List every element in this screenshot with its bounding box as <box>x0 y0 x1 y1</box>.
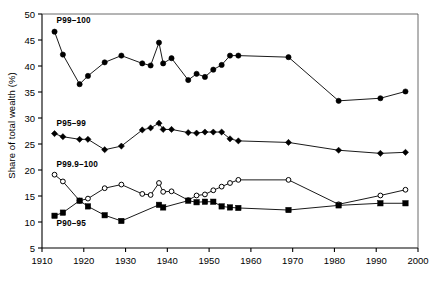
data-point <box>161 189 166 194</box>
x-tick-label: 1960 <box>240 255 261 266</box>
data-point <box>285 139 291 145</box>
series-label-P99.9-100: P99.9–100 <box>57 160 99 169</box>
series-line <box>55 32 406 101</box>
data-point <box>210 129 216 135</box>
data-point <box>85 73 90 78</box>
data-point <box>169 56 174 61</box>
series-P95-99: P95–99 <box>51 119 408 156</box>
data-point <box>186 198 191 203</box>
data-point <box>160 205 165 210</box>
data-point <box>336 147 342 153</box>
y-tick-label: 15 <box>24 191 35 202</box>
series-P90-95: P90–95 <box>52 198 408 228</box>
data-point <box>336 98 341 103</box>
data-point <box>219 184 224 189</box>
data-point <box>119 53 124 58</box>
data-point <box>228 181 233 186</box>
data-point <box>168 126 174 132</box>
y-tick-label: 35 <box>24 87 35 98</box>
data-point <box>378 201 383 206</box>
data-point <box>378 96 383 101</box>
data-point <box>102 213 107 218</box>
y-tick-label: 40 <box>24 61 35 72</box>
data-point <box>202 129 208 135</box>
y-tick-label: 30 <box>24 113 35 124</box>
data-point <box>185 129 191 135</box>
data-point <box>211 199 216 204</box>
y-tick-label: 45 <box>24 35 35 46</box>
data-point <box>403 201 408 206</box>
data-point <box>202 199 207 204</box>
y-tick-label: 20 <box>24 165 35 176</box>
chart-plot-area: 5101520253035404550191019201930194019501… <box>0 0 441 284</box>
x-tick-label: 1970 <box>282 255 303 266</box>
data-point <box>102 60 107 65</box>
data-point <box>378 193 383 198</box>
data-point <box>140 61 145 66</box>
data-point <box>148 63 153 68</box>
data-point <box>156 120 162 126</box>
x-tick-label: 1950 <box>199 255 220 266</box>
data-point <box>77 198 82 203</box>
data-point <box>236 177 241 182</box>
data-point <box>219 204 224 209</box>
data-point <box>86 196 91 201</box>
data-point <box>156 40 161 45</box>
data-point <box>202 74 207 79</box>
data-point <box>286 207 291 212</box>
data-point <box>403 89 408 94</box>
data-point <box>286 177 291 182</box>
data-point <box>227 205 232 210</box>
data-point <box>186 77 191 82</box>
data-point <box>227 53 232 58</box>
data-point <box>140 192 145 197</box>
data-point <box>219 62 224 67</box>
y-tick-label: 50 <box>24 9 35 20</box>
series-label-P95-99: P95–99 <box>57 119 87 128</box>
data-point <box>211 188 216 193</box>
data-point <box>194 193 199 198</box>
y-tick-label: 10 <box>24 217 35 228</box>
data-point <box>85 204 90 209</box>
data-point <box>77 136 83 142</box>
data-point <box>102 186 107 191</box>
series-P99-100: P99–100 <box>52 16 408 103</box>
data-point <box>85 136 91 142</box>
data-point <box>60 210 65 215</box>
data-point <box>169 189 174 194</box>
data-point <box>119 182 124 187</box>
series-P99.9-100: P99.9–100 <box>52 160 408 207</box>
data-point <box>235 138 241 144</box>
data-point <box>203 192 208 197</box>
data-point <box>148 193 153 198</box>
data-point <box>60 52 65 57</box>
data-point <box>102 147 108 153</box>
data-point <box>194 71 199 76</box>
data-point <box>52 29 57 34</box>
data-point <box>161 61 166 66</box>
data-point <box>194 200 199 205</box>
data-point <box>193 130 199 136</box>
data-point <box>77 82 82 87</box>
series-label-P90-95: P90–95 <box>57 219 87 228</box>
data-point <box>236 53 241 58</box>
data-point <box>211 67 216 72</box>
x-tick-label: 1990 <box>366 255 387 266</box>
data-point <box>157 181 162 186</box>
data-point <box>60 134 66 140</box>
data-point <box>236 205 241 210</box>
data-point <box>160 126 166 132</box>
data-point <box>51 131 57 137</box>
y-tick-label: 5 <box>30 243 35 254</box>
x-tick-label: 1930 <box>115 255 136 266</box>
data-point <box>403 187 408 192</box>
data-point <box>402 149 408 155</box>
x-tick-label: 1920 <box>73 255 94 266</box>
data-point <box>377 150 383 156</box>
data-point <box>119 218 124 223</box>
x-tick-label: 1980 <box>324 255 345 266</box>
y-tick-label: 25 <box>24 139 35 150</box>
x-tick-label: 2000 <box>407 255 428 266</box>
data-point <box>148 125 154 131</box>
x-tick-label: 1940 <box>157 255 178 266</box>
